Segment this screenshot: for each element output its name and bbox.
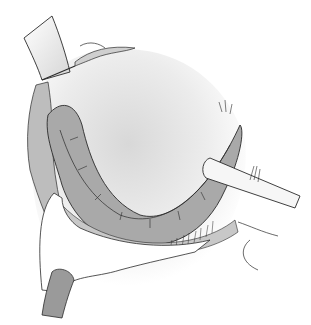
- surgical-illustration: [0, 0, 311, 325]
- illustration-svg: [0, 0, 311, 325]
- finger-outline: [243, 240, 258, 270]
